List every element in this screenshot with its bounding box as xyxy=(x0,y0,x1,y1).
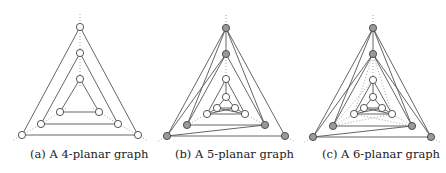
graph-vertex xyxy=(329,122,336,129)
graph-vertex xyxy=(183,121,190,128)
graph-vertex xyxy=(241,110,248,117)
graph-edge xyxy=(373,28,431,137)
graph-vertex xyxy=(369,93,376,100)
graph-vertex xyxy=(222,50,229,57)
graph-vertex xyxy=(281,132,288,139)
graph-vertex xyxy=(369,76,376,83)
graph-edge xyxy=(80,27,138,135)
graph-vertex xyxy=(427,133,434,140)
graph-vertex xyxy=(95,108,102,115)
graph-vertex xyxy=(408,122,415,129)
graph-vertex xyxy=(222,75,229,82)
graph-vertex xyxy=(76,23,83,30)
graph-vertex xyxy=(350,110,357,117)
graph-edge xyxy=(22,27,80,135)
graph-vertex xyxy=(222,93,229,100)
graph-vertex xyxy=(378,104,385,111)
graph-edge xyxy=(313,126,412,137)
graph-vertex xyxy=(231,104,238,111)
graph-vertex xyxy=(37,120,44,127)
graph-edge xyxy=(226,28,285,136)
graph-vertex xyxy=(222,24,229,31)
graph-edge xyxy=(167,125,265,136)
graph-vertex xyxy=(360,104,367,111)
graph-vertex xyxy=(76,75,83,82)
subfigure-b-graph xyxy=(157,15,295,142)
graph-vertex xyxy=(261,121,268,128)
graph-vertex xyxy=(213,104,220,111)
caption-b: (b) A 5-planar graph xyxy=(175,147,294,161)
graph-edge xyxy=(167,28,226,136)
dotted-edge xyxy=(333,114,392,126)
graph-vertex xyxy=(56,108,63,115)
subfigure-c-graph xyxy=(303,15,441,143)
graph-vertex xyxy=(18,131,25,138)
graph-edge xyxy=(313,28,373,137)
graph-vertex xyxy=(76,49,83,56)
dotted-edge xyxy=(333,80,373,126)
caption-a: (a) A 4-planar graph xyxy=(30,147,148,161)
graph-vertex xyxy=(163,132,170,139)
graph-vertex xyxy=(203,110,210,117)
graph-vertex xyxy=(369,50,376,57)
subfigure-a-graph xyxy=(12,14,148,141)
graph-vertex xyxy=(114,120,121,127)
graph-vertex xyxy=(388,110,395,117)
caption-c: (c) A 6-planar graph xyxy=(322,147,440,161)
graph-vertex xyxy=(134,131,141,138)
graph-vertex xyxy=(369,24,376,31)
graph-vertex xyxy=(309,133,316,140)
